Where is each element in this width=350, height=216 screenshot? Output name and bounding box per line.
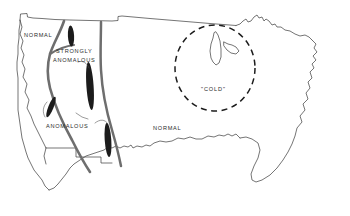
cold-region-circle — [175, 25, 255, 111]
label-strongly-anomalous: STRONGLY ANOMALOUS — [53, 47, 96, 64]
label-strongly-anomalous-line2: ANOMALOUS — [53, 56, 96, 65]
pacific-coast-outline — [20, 14, 236, 26]
state-line-west-stub — [44, 148, 46, 164]
northern-border-great-lakes — [236, 15, 312, 40]
us-anomaly-map-figure: NORMAL STRONGLY ANOMALOUS ANOMALOUS NORM… — [0, 0, 350, 216]
anomaly-core-north — [67, 25, 74, 46]
western-anomaly-band-outer — [48, 21, 90, 172]
map-graphic — [0, 0, 350, 216]
gulf-coast-outline — [49, 134, 240, 190]
label-cold: "COLD" — [201, 85, 226, 93]
us-outline — [17, 14, 317, 191]
west-coast-detail — [20, 20, 46, 148]
leader-line-label-tail — [76, 113, 88, 119]
label-anomalous: ANOMALOUS — [46, 122, 89, 130]
leader-line-south-core — [95, 120, 108, 124]
label-normal-central: NORMAL — [153, 124, 181, 132]
lake-erie-outline — [224, 42, 239, 54]
anomaly-core-central — [85, 62, 96, 110]
label-strongly-anomalous-line1: STRONGLY — [53, 47, 96, 56]
atlantic-coast-outline — [240, 40, 317, 182]
lake-michigan-outline — [210, 32, 221, 65]
label-normal-northwest: NORMAL — [24, 31, 52, 39]
leader-lines — [43, 61, 108, 124]
